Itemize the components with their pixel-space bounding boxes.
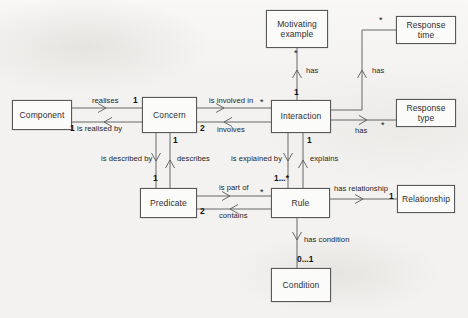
mult-response-time-star: * (379, 16, 383, 25)
node-rule-label: Rule (290, 198, 312, 208)
arrow-has-response-time (358, 70, 367, 78)
arrow-explains (299, 160, 308, 168)
label-describes: describes (177, 155, 210, 163)
label-has-condition: has condition (304, 236, 349, 244)
node-condition-label: Condition (281, 280, 322, 290)
node-component[interactable]: Component (12, 100, 72, 130)
label-is-involved-in: is involved in (209, 97, 253, 105)
label-contains: contains (219, 212, 248, 220)
mult-concern-describes: 1 (173, 136, 178, 144)
mult-rule-is-part-of: * (260, 188, 264, 197)
node-interaction-label: Interaction (279, 111, 324, 121)
node-response-time[interactable]: Response time (396, 16, 456, 44)
mult-predicate-described-by: 1 (153, 174, 158, 182)
mult-rule-explained-by: 1...* (274, 174, 289, 182)
edge-has-response-time-line (331, 30, 396, 110)
mult-concern-involves: 2 (200, 124, 205, 132)
arrow-has-relationship (355, 195, 363, 204)
label-explains: explains (310, 155, 338, 163)
mult-condition-zero-one: 0...1 (297, 255, 313, 263)
label-involves: involves (217, 126, 245, 134)
node-motivating-example-label: Motivating example (267, 19, 327, 39)
mult-concern-realises: 1 (133, 96, 138, 104)
arrow-has-motivating (293, 70, 302, 78)
label-is-realised-by: is realised by (77, 125, 122, 133)
node-response-type[interactable]: Response type (396, 99, 456, 127)
label-has-motivating: has (306, 67, 318, 75)
arrow-is-explained-by (284, 153, 293, 161)
node-relationship-label: Relationship (400, 194, 452, 204)
mult-interaction-has-motivating: 1 (294, 88, 299, 96)
arrow-has-response-type (359, 116, 367, 125)
label-has-response-type: has (355, 127, 367, 135)
diagram-canvas: Component Concern Interaction Motivating… (0, 0, 468, 318)
node-response-type-label: Response type (397, 103, 455, 123)
label-has-relationship: has relationship (334, 185, 388, 193)
mult-predicate-contains: 2 (200, 207, 205, 215)
node-predicate-label: Predicate (148, 198, 189, 208)
mult-motivating-star: * (294, 49, 298, 58)
node-component-label: Component (18, 110, 67, 120)
node-concern[interactable]: Concern (142, 97, 197, 133)
arrow-has-condition (293, 232, 302, 240)
node-interaction[interactable]: Interaction (271, 100, 331, 133)
label-is-described-by: is described by (101, 155, 152, 163)
node-predicate[interactable]: Predicate (140, 188, 197, 218)
arrow-is-part-of (222, 192, 230, 201)
arrow-describes (166, 160, 175, 168)
node-concern-label: Concern (151, 110, 188, 120)
mult-component-realised-by: 1 (70, 124, 75, 132)
mult-interaction-involved-in: * (260, 98, 264, 107)
node-response-time-label: Response time (397, 20, 455, 40)
mult-interaction-explains: 1 (307, 136, 312, 144)
label-has-response-time: has (372, 67, 384, 75)
node-condition[interactable]: Condition (271, 268, 331, 302)
label-is-explained-by: is explained by (231, 155, 282, 163)
mult-response-type-star: * (381, 121, 385, 130)
mult-relationship-one: 1 (389, 192, 394, 200)
arrow-is-described-by (152, 153, 161, 161)
node-rule[interactable]: Rule (271, 188, 330, 218)
label-is-part-of: is part of (219, 184, 249, 192)
node-motivating-example[interactable]: Motivating example (266, 10, 328, 48)
label-realises: realises (92, 97, 119, 105)
node-relationship[interactable]: Relationship (397, 185, 455, 213)
